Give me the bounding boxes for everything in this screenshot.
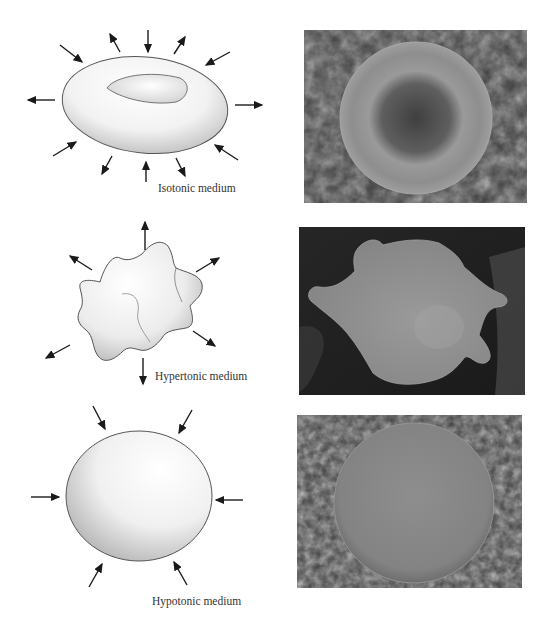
hypertonic-cell xyxy=(78,242,202,360)
caption-hypotonic: Hypotonic medium xyxy=(152,595,241,607)
caption-hypertonic: Hypertonic medium xyxy=(155,370,247,382)
hypertonic-micrograph xyxy=(299,227,525,395)
hypotonic-diagram: Hypotonic medium xyxy=(0,400,290,629)
hypertonic-diagram: Hypertonic medium xyxy=(0,210,290,410)
isotonic-diagram: Isotonic medium xyxy=(0,0,290,210)
hypotonic-cell xyxy=(66,431,212,561)
isotonic-micrograph xyxy=(304,30,527,203)
hypotonic-micrograph xyxy=(297,415,522,588)
caption-isotonic: Isotonic medium xyxy=(158,182,236,194)
